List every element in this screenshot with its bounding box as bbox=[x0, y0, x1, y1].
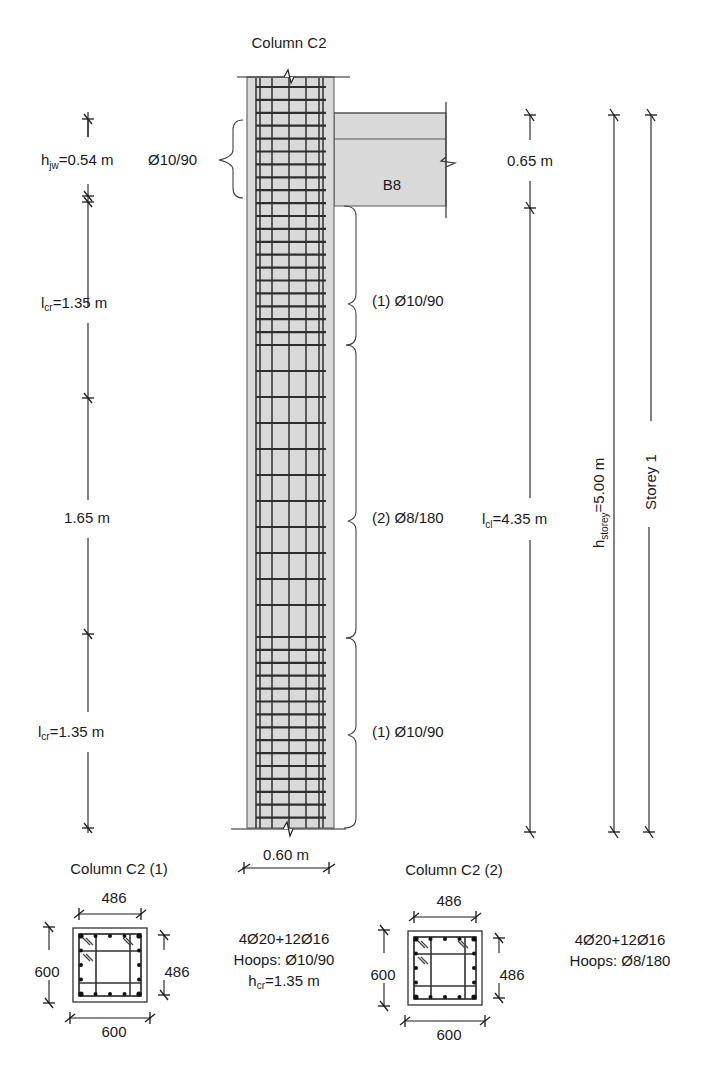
section-2-title: Column C2 (2) bbox=[405, 861, 503, 878]
storey-label: Storey 1 bbox=[642, 454, 659, 510]
zone-1-bottom-label: (1) Ø10/90 bbox=[372, 723, 444, 740]
section-1-title: Column C2 (1) bbox=[70, 860, 168, 877]
section-1-reinforcement: 4Ø20+12Ø16 bbox=[239, 930, 330, 947]
section-c2-1: Column C2 (1) 486 600 486 600 4Ø20+12Ø16… bbox=[34, 860, 334, 1040]
clear-height-dimension: lcl=4.35 m bbox=[482, 510, 547, 530]
joint-hoops-label: Ø10/90 bbox=[148, 151, 197, 168]
section-2-dim-right: 486 bbox=[499, 966, 524, 983]
section-2-dim-bottom: 600 bbox=[436, 1026, 461, 1043]
middle-zone-dimension: 1.65 m bbox=[64, 509, 110, 526]
section-1-dim-bottom: 600 bbox=[101, 1023, 126, 1040]
brace-zone-1-top-icon bbox=[344, 206, 356, 345]
section-1-dim-left: 600 bbox=[34, 963, 59, 980]
section-c2-2: Column C2 (2) 486 600 486 600 4Ø20+12Ø16… bbox=[370, 861, 670, 1043]
elevation-title: Column C2 bbox=[251, 34, 326, 51]
section-1-dim-top: 486 bbox=[101, 889, 126, 906]
section-2-dim-left: 600 bbox=[370, 966, 395, 983]
hjw-dimension: hjw=0.54 m bbox=[41, 151, 113, 171]
beam-depth-dimension: 0.65 m bbox=[507, 152, 553, 169]
column-elevation bbox=[231, 70, 350, 836]
brace-joint-icon bbox=[219, 120, 243, 198]
column-width-label: 0.60 m bbox=[263, 846, 309, 863]
section-2-dim-top: 486 bbox=[436, 892, 461, 909]
beam-b8: B8 bbox=[334, 102, 455, 218]
section-2-reinforcement: 4Ø20+12Ø16 bbox=[575, 931, 666, 948]
brace-zone-2-icon bbox=[346, 345, 356, 638]
zone-2-label: (2) Ø8/180 bbox=[372, 509, 444, 526]
lcr-top-dimension: lcr=1.35 m bbox=[41, 294, 107, 313]
storey-height-dimension: hstorey=5.00 m bbox=[590, 458, 610, 548]
column-c2-drawing: Column C2 B8 Ø10/90 (1) Ø10/90 (2) Ø8/18… bbox=[0, 0, 723, 1089]
column-width-dimension bbox=[238, 862, 335, 874]
brace-zone-1-bottom-icon bbox=[344, 638, 356, 828]
lcr-bottom-dimension: lcr=1.35 m bbox=[38, 723, 104, 742]
beam-label: B8 bbox=[383, 176, 401, 193]
section-1-hoops: Hoops: Ø10/90 bbox=[234, 951, 335, 968]
section-1-dim-right: 486 bbox=[164, 963, 189, 980]
section-2-hoops: Hoops: Ø8/180 bbox=[570, 952, 671, 969]
zone-1-top-label: (1) Ø10/90 bbox=[372, 292, 444, 309]
section-1-hcr: hcr=1.35 m bbox=[248, 972, 319, 991]
